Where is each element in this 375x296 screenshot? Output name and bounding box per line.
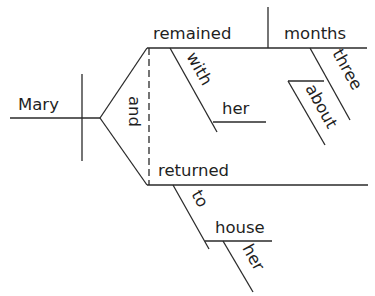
sentence-diagram: Mary and remained months with her three …	[0, 0, 375, 296]
conjunction-word: and	[125, 96, 144, 127]
object-modifier-word: her	[239, 241, 269, 274]
verb1-word: remained	[153, 24, 231, 43]
fork-lower-branch	[100, 118, 147, 185]
subject-word: Mary	[18, 95, 59, 114]
verb1-prep-word: with	[183, 49, 217, 89]
complement-modifier-word: three	[329, 46, 367, 93]
verb2-word: returned	[158, 161, 229, 180]
adverb-word: about	[302, 81, 342, 132]
verb1-complement-word: months	[284, 24, 346, 43]
verb1-prep-object-word: her	[222, 99, 250, 118]
verb2-prep-word: to	[188, 187, 213, 211]
verb2-prep-object-word: house	[215, 218, 265, 237]
